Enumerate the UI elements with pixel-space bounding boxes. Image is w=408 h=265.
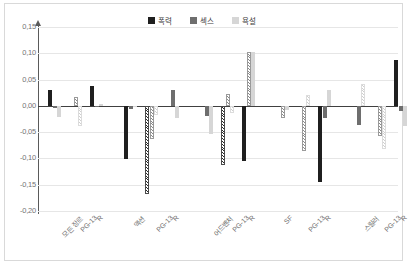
x-axis-tick-label: 스릴러 [361,214,381,234]
legend-swatch-violence [148,17,155,24]
bar [145,106,149,194]
chart-legend: 폭력 섹스 욕설 [148,15,256,26]
bar [382,106,386,149]
zero-axis-line [38,106,398,107]
x-axis-tick-label: R [323,214,332,223]
bar [124,106,128,160]
bar [74,97,78,106]
bar [323,106,327,118]
legend-label-profanity: 욕설 [242,15,256,26]
bar [226,94,230,106]
bar [357,106,361,125]
bar [154,106,158,115]
bar [53,106,57,108]
y-axis-tick-label: 0,00 [4,101,36,110]
bar [251,52,255,106]
legend-item-violence: 폭력 [148,15,172,26]
bar [318,106,322,182]
bar [99,104,103,106]
bar [129,106,133,109]
y-axis-tick-label: 0,05 [4,75,36,84]
x-axis-tick-label: R [95,214,104,223]
x-axis-label-wrap: R [95,214,104,223]
legend-label-sex: 섹스 [200,15,214,26]
y-axis-tick-label: -0,10 [4,153,36,162]
legend-swatch-sex [190,17,197,24]
bar [48,90,52,106]
bar [361,84,365,106]
x-axis-tick-label: R [247,214,256,223]
bar [78,106,82,126]
gridline [38,158,398,159]
y-axis-tick-label: -0,20 [4,206,36,215]
y-axis-tick-label: 0,10 [4,48,36,57]
bar [327,90,331,106]
gridline [38,80,398,81]
x-axis-tick-label: R [399,214,408,223]
bar [57,106,61,117]
x-axis-label-wrap: R [323,214,332,223]
chart-container: 폭력 섹스 욕설 0,150,100,050,00-0,05-0,10-0,15… [0,0,408,265]
legend-label-violence: 폭력 [158,15,172,26]
x-axis-tick-label: R [171,214,180,223]
bar [399,106,403,111]
y-axis-tick-label: -0,15 [4,180,36,189]
bar [171,90,175,106]
x-axis-tick-label: 액션 [132,214,148,230]
legend-swatch-profanity [232,17,239,24]
x-axis-labels: 모든 장르PG-13R액션PG-13R어드벤처PG-13RSFPG-13R스릴러… [38,212,398,265]
gridline [38,27,398,28]
y-axis-tick-label: -0,05 [4,127,36,136]
bar [209,106,213,134]
bar [230,106,234,113]
bar [247,52,251,106]
bar [306,95,310,106]
x-axis-label-wrap: 액션 [132,214,148,230]
gridline [38,132,398,133]
bar [285,106,289,110]
bar [205,106,209,116]
legend-item-profanity: 욕설 [232,15,256,26]
bar [403,106,407,126]
bar [394,60,398,106]
x-axis-label-wrap: 스릴러 [361,214,381,234]
y-axis-tick-label: 0,15 [4,22,36,31]
legend-item-sex: 섹스 [190,15,214,26]
plot-area [38,27,398,211]
x-axis-label-wrap: R [247,214,256,223]
bar [95,106,99,108]
bar [302,106,306,151]
x-axis-label-wrap: R [171,214,180,223]
bar [175,106,179,118]
gridline [38,53,398,54]
bar [378,106,382,136]
bar [221,106,225,165]
bar [281,106,285,119]
bar [242,106,246,161]
bar [150,106,154,139]
x-axis-label-wrap: R [399,214,408,223]
bar [90,86,94,106]
gridline [38,185,398,186]
x-axis-tick-label: SF [283,214,294,225]
bar [133,106,137,108]
x-axis-label-wrap: SF [283,214,294,225]
